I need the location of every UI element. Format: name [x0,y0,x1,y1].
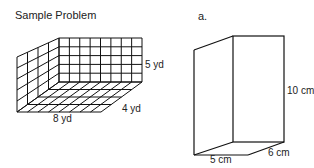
length-label-yd: 8 yd [53,114,72,124]
rectangular-prism [194,36,284,155]
grid-prism [17,38,142,112]
diagram-canvas [0,0,314,168]
depth-label-yd: 4 yd [122,104,141,114]
width-label-cm: 5 cm [210,155,232,165]
height-label-yd: 5 yd [145,60,164,70]
height-label-cm: 10 cm [287,86,314,96]
depth-label-cm: 6 cm [268,148,290,158]
